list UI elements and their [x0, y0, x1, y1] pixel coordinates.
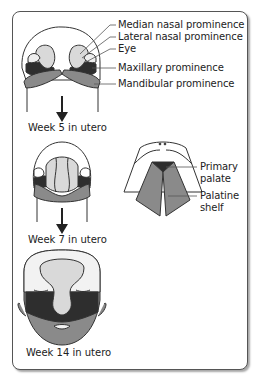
- week5-embryo: [22, 27, 100, 112]
- palate-diagram: [124, 142, 202, 216]
- label-primary-palate-line1: Primary: [200, 161, 238, 172]
- arrow-down-icon: [56, 208, 68, 234]
- label-palatine-shelf-line2: shelf: [200, 202, 224, 213]
- caption-week14: Week 14 in utero: [26, 347, 111, 358]
- label-palatine-shelf-line1: Palatine: [200, 190, 239, 201]
- label-median-nasal-prominence: Median nasal prominence: [118, 19, 244, 30]
- caption-week7: Week 7 in utero: [28, 234, 107, 245]
- label-lateral-nasal-prominence: Lateral nasal prominence: [118, 31, 243, 42]
- label-primary-palate-line2: palate: [200, 173, 231, 184]
- arrow-down-icon: [56, 96, 68, 122]
- label-maxillary-prominence: Maxillary prominence: [118, 62, 224, 73]
- caption-week5: Week 5 in utero: [28, 122, 107, 133]
- label-mandibular-prominence: Mandibular prominence: [118, 78, 234, 89]
- label-eye: Eye: [118, 43, 136, 54]
- week14-face: [18, 250, 106, 345]
